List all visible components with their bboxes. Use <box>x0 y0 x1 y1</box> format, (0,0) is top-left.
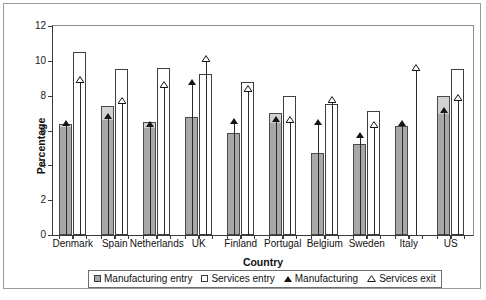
open-triangle-icon <box>367 273 376 284</box>
marker-services-exit <box>80 83 81 235</box>
x-axis-tick <box>212 235 213 239</box>
marker-services-exit <box>332 103 333 235</box>
chart-legend: Manufacturing entry Services entry Manuf… <box>88 270 442 288</box>
y-axis-tick-label: 12 <box>35 21 46 31</box>
bar-group: UK <box>179 26 221 235</box>
x-axis-tick-label: Spain <box>102 238 128 249</box>
marker-manufacturing <box>108 119 109 235</box>
x-axis-tick-label: Netherlands <box>130 238 184 249</box>
legend-label: Manufacturing entry <box>104 273 192 284</box>
x-axis-tick <box>185 235 186 239</box>
marker-services-exit <box>458 101 459 235</box>
marker-services-exit <box>374 128 375 235</box>
x-axis-tick <box>395 235 396 239</box>
open-triangle-icon <box>370 121 379 128</box>
x-axis-tick-label: Portugal <box>264 238 301 249</box>
x-axis-tick-label: Denmark <box>52 238 93 249</box>
filled-triangle-icon <box>284 276 292 282</box>
legend-item-services-exit: Services exit <box>367 273 436 284</box>
x-axis-tick-label: US <box>444 238 458 249</box>
x-axis-tick <box>422 235 423 239</box>
open-triangle-icon <box>454 94 463 101</box>
marker-services-exit <box>416 71 417 235</box>
y-axis-tick-label: 4 <box>40 160 46 170</box>
y-axis-tick-label: 8 <box>40 91 46 101</box>
open-triangle-icon <box>328 96 337 103</box>
open-triangle-icon <box>160 81 169 88</box>
bar-group: Belgium <box>305 26 347 235</box>
filled-square-icon <box>94 275 101 282</box>
chart-frame: Percentage 024681012DenmarkSpainNetherla… <box>3 3 481 289</box>
y-axis-tick-label: 10 <box>35 56 46 66</box>
marker-manufacturing <box>360 138 361 235</box>
open-triangle-icon <box>244 85 253 92</box>
open-square-icon <box>201 275 208 282</box>
marker-services-exit <box>122 104 123 235</box>
bar-group: Finland <box>221 26 263 235</box>
bar-group: Spain <box>95 26 137 235</box>
x-axis-title: Country <box>52 256 474 268</box>
x-axis-tick-label: Finland <box>224 238 257 249</box>
y-axis-tick-label: 2 <box>40 195 46 205</box>
bar-group: Netherlands <box>137 26 179 235</box>
x-axis-tick-label: Italy <box>400 238 418 249</box>
x-axis-tick <box>437 235 438 239</box>
x-axis-tick <box>464 235 465 239</box>
x-axis-tick-label: UK <box>192 238 206 249</box>
marker-manufacturing <box>150 127 151 235</box>
bar-group: Italy <box>389 26 431 235</box>
bar-group: Denmark <box>53 26 95 235</box>
legend-label: Services exit <box>379 273 436 284</box>
open-triangle-icon <box>412 64 421 71</box>
marker-manufacturing <box>66 126 67 235</box>
open-triangle-icon <box>286 116 295 123</box>
marker-manufacturing <box>444 113 445 235</box>
y-axis-tick-label: 6 <box>40 126 46 136</box>
marker-services-exit <box>248 92 249 235</box>
marker-manufacturing <box>318 125 319 235</box>
marker-manufacturing <box>234 124 235 235</box>
x-axis-tick-label: Belgium <box>307 238 343 249</box>
legend-label: Services entry <box>211 273 274 284</box>
marker-manufacturing <box>276 122 277 235</box>
legend-item-services-entry: Services entry <box>201 273 274 284</box>
marker-services-exit <box>164 88 165 235</box>
plot-inner: 024681012DenmarkSpainNetherlandsUKFinlan… <box>53 26 473 235</box>
y-axis-tick <box>48 235 53 236</box>
x-axis-tick-label: Sweden <box>349 238 385 249</box>
y-axis-tick-label: 0 <box>40 230 46 240</box>
marker-manufacturing <box>192 85 193 235</box>
legend-label: Manufacturing <box>295 273 358 284</box>
bar-group: Portugal <box>263 26 305 235</box>
bar-group: Sweden <box>347 26 389 235</box>
bar-group: US <box>431 26 473 235</box>
marker-manufacturing <box>402 126 403 235</box>
plot-area: 024681012DenmarkSpainNetherlandsUKFinlan… <box>52 25 474 236</box>
open-triangle-icon <box>118 97 127 104</box>
open-triangle-icon <box>202 55 211 62</box>
open-triangle-icon <box>76 76 85 83</box>
legend-item-manufacturing: Manufacturing <box>284 273 358 284</box>
marker-services-exit <box>206 62 207 235</box>
marker-services-exit <box>290 123 291 235</box>
legend-item-manufacturing-entry: Manufacturing entry <box>94 273 192 284</box>
